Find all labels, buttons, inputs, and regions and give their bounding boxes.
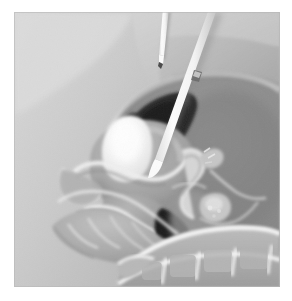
figure-grain-overlay bbox=[14, 12, 280, 287]
medical-illustration-figure: Laparoscopic pelvic anatomy illustration… bbox=[14, 12, 280, 287]
screenshot-root: Laparoscopic pelvic anatomy illustration… bbox=[0, 0, 292, 301]
pelvic-anatomy-illustration bbox=[14, 12, 280, 287]
